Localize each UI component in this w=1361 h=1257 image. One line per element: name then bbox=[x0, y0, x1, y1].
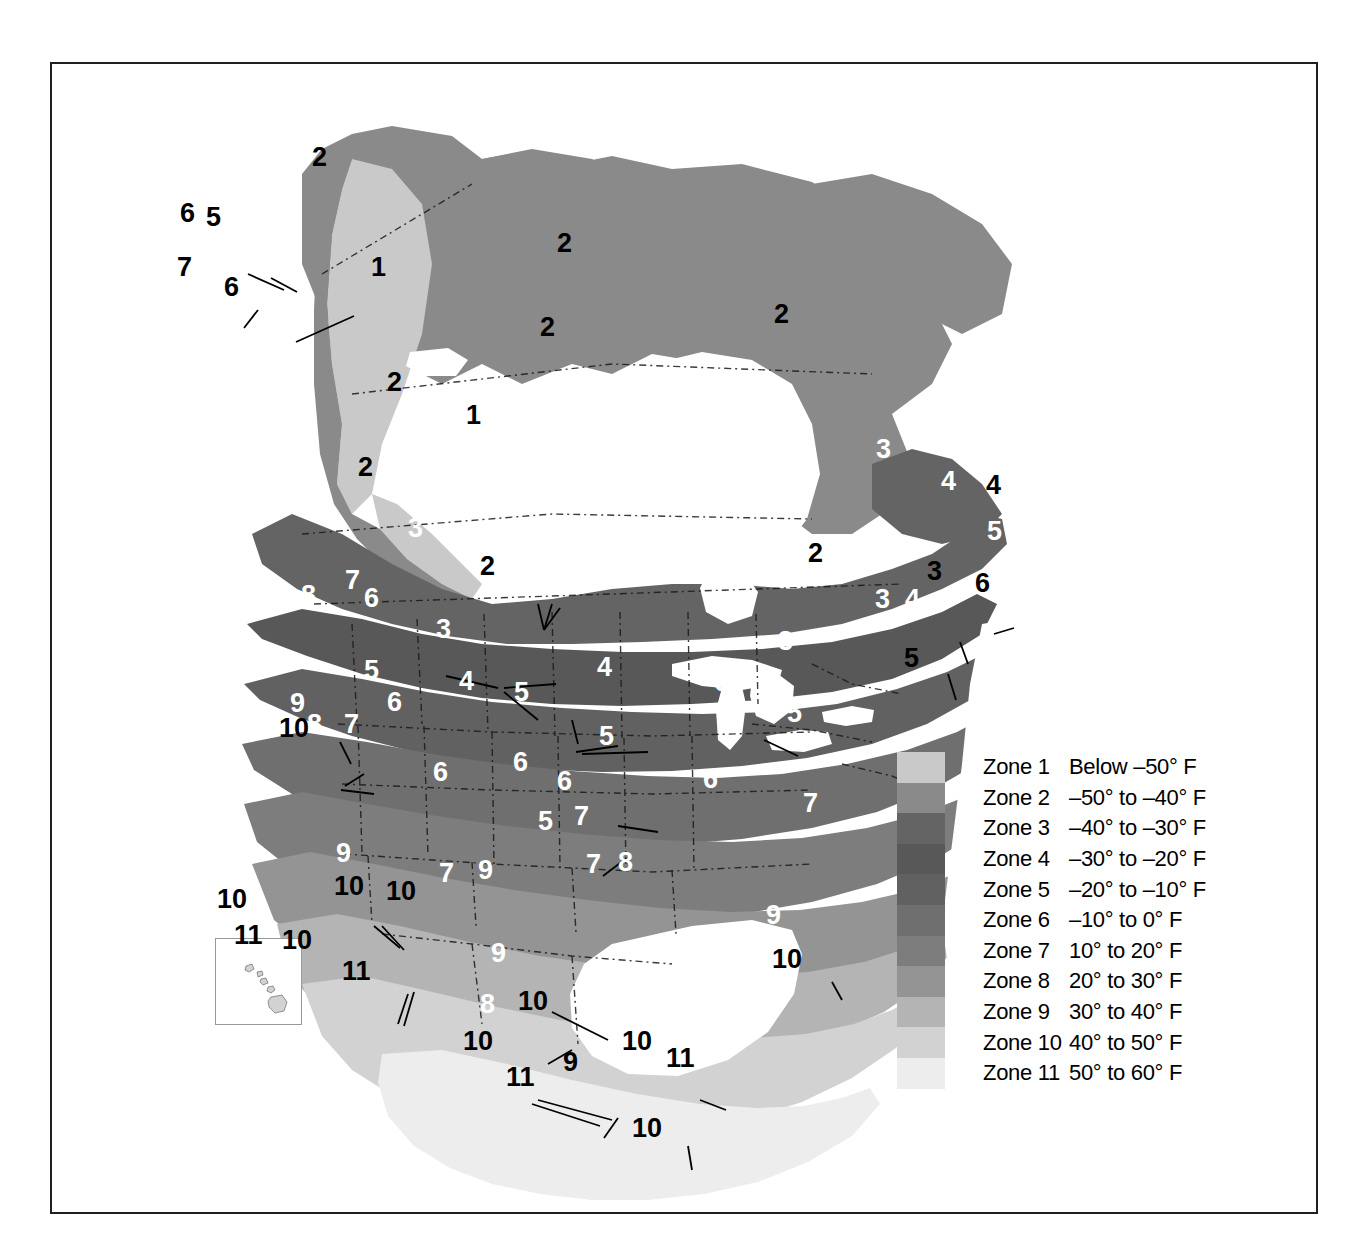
lake-winnipeg bbox=[570, 540, 594, 590]
legend: Zone 1Below –50° FZone 2–50° to –40° FZo… bbox=[897, 752, 1227, 1089]
zone-label: 5 bbox=[787, 700, 802, 727]
zone-label: 7 bbox=[574, 803, 589, 830]
legend-range-label: –30° to –20° F bbox=[1069, 846, 1206, 872]
legend-zone-label: Zone 10 bbox=[983, 1030, 1069, 1056]
zone-label: 9 bbox=[766, 902, 781, 929]
zone-label: 8 bbox=[301, 582, 316, 609]
zone-label: 7 bbox=[177, 254, 192, 281]
zone-label: 8 bbox=[307, 711, 322, 738]
zone-label: 7 bbox=[345, 567, 360, 594]
legend-range-label: –50° to –40° F bbox=[1069, 785, 1206, 811]
legend-zone-label: Zone 4 bbox=[983, 846, 1069, 872]
legend-range-label: 30° to 40° F bbox=[1069, 999, 1182, 1025]
legend-range-label: 20° to 30° F bbox=[1069, 968, 1182, 994]
legend-row: Zone 1150° to 60° F bbox=[897, 1058, 1227, 1089]
zone-label: 3 bbox=[875, 586, 890, 613]
legend-row: Zone 5–20° to –10° F bbox=[897, 874, 1227, 905]
hawaii-zone-label: 11 bbox=[234, 922, 263, 949]
zone-label: 3 bbox=[408, 515, 423, 542]
zone-label: 6 bbox=[180, 200, 195, 227]
zone-label: 2 bbox=[387, 369, 402, 396]
zone-label: 6 bbox=[703, 766, 718, 793]
legend-range-label: –10° to 0° F bbox=[1069, 907, 1182, 933]
zone-label: 10 bbox=[622, 1028, 652, 1055]
legend-row: Zone 710° to 20° F bbox=[897, 936, 1227, 967]
zone-label: 6 bbox=[364, 585, 379, 612]
legend-zone-label: Zone 9 bbox=[983, 999, 1069, 1025]
zone-label: 4 bbox=[986, 472, 1001, 499]
zone-label: 2 bbox=[557, 230, 572, 257]
zone-label: 3 bbox=[436, 616, 451, 643]
zone-label: 3 bbox=[256, 209, 271, 236]
zone-label: 5 bbox=[364, 657, 379, 684]
zone-label: 5 bbox=[206, 204, 221, 231]
zone-label: 11 bbox=[666, 1045, 695, 1072]
legend-zone-label: Zone 5 bbox=[983, 877, 1069, 903]
zone-label: 5 bbox=[538, 808, 553, 835]
legend-range-label: –20° to –10° F bbox=[1069, 877, 1206, 903]
legend-swatch bbox=[897, 966, 945, 997]
zone-label: 5 bbox=[987, 518, 1002, 545]
legend-row: Zone 1040° to 50° F bbox=[897, 1027, 1227, 1058]
legend-range-label: 40° to 50° F bbox=[1069, 1030, 1182, 1056]
zone-label: 6 bbox=[513, 749, 528, 776]
zone1-core bbox=[327, 159, 432, 514]
zone-label: 9 bbox=[491, 940, 506, 967]
zone-label: 11 bbox=[342, 958, 371, 985]
zone-label: 4 bbox=[905, 586, 920, 613]
zone-label: 5 bbox=[514, 679, 529, 706]
legend-swatch bbox=[897, 752, 945, 783]
zone-label: 10 bbox=[334, 873, 364, 900]
zone-label: 9 bbox=[563, 1049, 578, 1076]
legend-zone-label: Zone 8 bbox=[983, 968, 1069, 994]
legend-swatch bbox=[897, 905, 945, 936]
zone-label: 6 bbox=[224, 274, 239, 301]
legend-zone-label: Zone 2 bbox=[983, 785, 1069, 811]
zone-label: 3 bbox=[778, 628, 793, 655]
zone-label: 4 bbox=[231, 198, 246, 225]
zone-label: 5 bbox=[599, 723, 614, 750]
hawaii-zone-label: 10 bbox=[217, 886, 247, 913]
zone-label: 10 bbox=[386, 878, 416, 905]
legend-range-label: –40° to –30° F bbox=[1069, 815, 1206, 841]
zone-label: 2 bbox=[480, 553, 495, 580]
legend-zone-label: Zone 6 bbox=[983, 907, 1069, 933]
legend-swatch bbox=[897, 936, 945, 967]
zone-label: 6 bbox=[975, 570, 990, 597]
zone-label: 7 bbox=[803, 790, 818, 817]
zone-label: 3 bbox=[506, 480, 521, 507]
zone-label: 8 bbox=[480, 991, 495, 1018]
zone-label: 11 bbox=[506, 1064, 535, 1091]
zone-label: 6 bbox=[433, 759, 448, 786]
zone-label: 1 bbox=[466, 402, 481, 429]
zone-label: 10 bbox=[518, 988, 548, 1015]
zone-label: 6 bbox=[387, 689, 402, 716]
legend-row: Zone 1Below –50° F bbox=[897, 752, 1227, 783]
zone3-labrador bbox=[872, 449, 1002, 544]
zone-label: 2 bbox=[774, 301, 789, 328]
legend-zone-label: Zone 11 bbox=[983, 1060, 1069, 1086]
zone-label: 3 bbox=[876, 436, 891, 463]
zone-label: 2 bbox=[358, 454, 373, 481]
zone-label: 1 bbox=[371, 254, 386, 281]
map-frame: 2654376122221234425333363234587635446536… bbox=[50, 62, 1318, 1214]
legend-row: Zone 4–30° to –20° F bbox=[897, 844, 1227, 875]
zone-label: 2 bbox=[808, 540, 823, 567]
zone-label: 7 bbox=[344, 711, 359, 738]
zone-label: 10 bbox=[772, 946, 802, 973]
legend-range-label: Below –50° F bbox=[1069, 754, 1197, 780]
legend-zone-label: Zone 1 bbox=[983, 754, 1069, 780]
legend-swatch bbox=[897, 997, 945, 1028]
zone-label: 8 bbox=[618, 849, 633, 876]
zone-label: 4 bbox=[941, 468, 956, 495]
zone-label: 4 bbox=[459, 668, 474, 695]
zone-label: 7 bbox=[439, 860, 454, 887]
legend-swatch bbox=[897, 783, 945, 814]
zone-label: 4 bbox=[597, 654, 612, 681]
zone-label: 2 bbox=[312, 144, 327, 171]
zone-label: 6 bbox=[557, 768, 572, 795]
zone-label: 7 bbox=[586, 851, 601, 878]
legend-row: Zone 3–40° to –30° F bbox=[897, 813, 1227, 844]
legend-swatch bbox=[897, 844, 945, 875]
page-root: 2654376122221234425333363234587635446536… bbox=[0, 0, 1361, 1257]
